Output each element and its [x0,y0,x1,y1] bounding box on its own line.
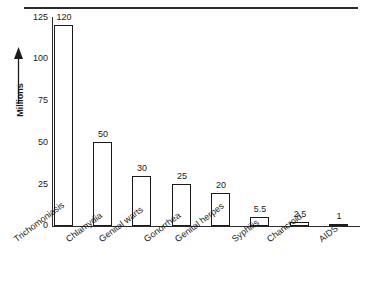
y-axis-line [52,17,53,226]
bar-value-genital-warts: 30 [122,164,162,173]
bar-value-trichomoniasis: 120 [44,13,84,22]
y-tick-label-25: 25 [22,180,48,189]
x-axis-line [52,226,360,227]
bar-value-gonorrhea: 25 [162,172,202,181]
plot-area: Millions 125 100 75 50 25 0 120 50 30 25… [0,0,372,295]
bar-trichomoniasis [54,25,73,226]
bar-value-aids: 1 [319,212,359,221]
y-tick-label-50: 50 [22,138,48,147]
bar-value-syphilis: 5.5 [240,205,280,214]
bar-chart: Millions 125 100 75 50 25 0 120 50 30 25… [0,0,372,295]
y-tick-label-100: 100 [22,54,48,63]
x-tick-label-syphilis: Syphilis [230,217,261,244]
bar-value-genital-herpes: 20 [201,181,241,190]
y-tick-label-75: 75 [22,96,48,105]
bar-value-chlamydia: 50 [83,130,123,139]
